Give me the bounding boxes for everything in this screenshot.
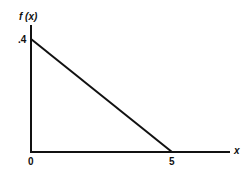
x-tick-label-0: 0 <box>28 157 34 167</box>
x-axis-label: x <box>234 146 240 156</box>
density-line <box>31 39 172 152</box>
y-tick-label: .4 <box>18 35 26 45</box>
x-tick-label-5: 5 <box>169 157 175 167</box>
chart-canvas <box>0 0 250 175</box>
y-axis-label: f (x) <box>19 12 37 22</box>
